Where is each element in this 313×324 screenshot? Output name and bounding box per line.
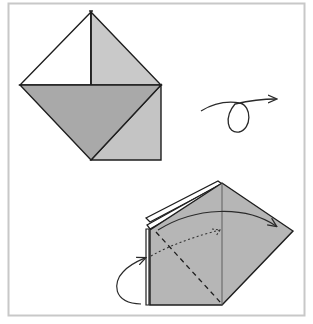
diagram-canvas <box>0 0 313 324</box>
left-layer-edge <box>146 229 149 305</box>
origami-diagram <box>0 0 313 324</box>
